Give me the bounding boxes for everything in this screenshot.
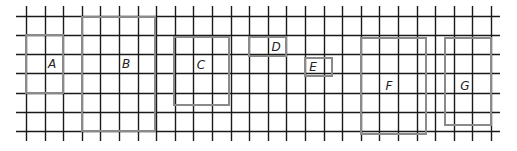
label-a: A [47,57,56,71]
rectangle-f [361,38,426,134]
label-f: F [386,79,394,93]
label-b: B [122,57,130,71]
label-g: G [460,79,469,93]
label-c: C [197,58,206,72]
shapes-layer: A B C D E F G [26,17,491,134]
grid-lines [16,6,500,141]
shape-a: A [26,35,63,93]
label-d: D [271,40,280,54]
shape-f: F [361,38,426,134]
shape-d: D [249,37,286,56]
shape-c: C [174,37,229,105]
label-e: E [309,60,317,74]
grid-diagram: A B C D E F G [0,0,517,151]
rectangle-a [26,35,63,93]
